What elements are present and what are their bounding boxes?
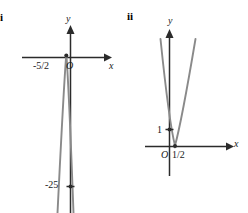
y-axis-arrow-ii <box>166 29 174 38</box>
y-intercept-label-i: -25 <box>45 180 58 190</box>
x-axis-arrow-ii <box>226 143 234 151</box>
x-axis-label-ii: x <box>234 139 238 149</box>
y-axis-label-ii: y <box>168 16 172 26</box>
y-intercept-label-ii: 1 <box>157 125 162 135</box>
plot-graph-i <box>0 0 124 213</box>
plot-graph-ii <box>124 0 248 213</box>
x-axis-label-i: x <box>109 61 113 71</box>
y-axis-arrow-i <box>67 25 75 34</box>
origin-label-i: O <box>66 61 73 71</box>
x-intercept-label-i: -5/2 <box>33 61 49 71</box>
vertex-marker-ii <box>173 144 177 148</box>
origin-label-ii: O <box>161 150 168 160</box>
x-intercept-label-ii: 1/2 <box>172 150 185 160</box>
y-axis-label-i: y <box>66 14 70 24</box>
y-tick-dot-minus25-i <box>69 185 73 189</box>
panel-ii: ii y x O 1/2 1 <box>124 0 248 213</box>
panel-i: i y x O -5/2 -25 <box>0 0 124 213</box>
vertex-marker-i <box>64 54 68 58</box>
figure-root: i y x O -5/2 -25 ii <box>0 0 248 213</box>
y-tick-dot-one-ii <box>168 128 172 132</box>
